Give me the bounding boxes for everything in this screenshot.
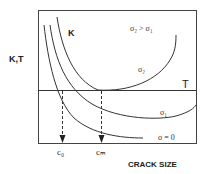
condition-label: σ₂ > σ₁ [130,24,153,33]
cm-arrow-icon [99,135,105,143]
c0-label: c₀ [57,147,64,157]
curve-sigma-zero [44,25,143,138]
sigma0-label: σ = 0 [158,133,175,142]
cm-label: cₘ [96,147,106,157]
sigma1-label: σ₁ [160,108,167,117]
k-t-crack-size-diagram: K,T K σ₂ > σ₁ σ₂ T σ₁ σ = 0 c₀ cₘ CRACK … [0,0,203,174]
t-label: T [182,78,189,90]
curve-sigma-2 [57,17,176,90]
k-label: K [68,28,75,38]
c0-arrow-icon [60,135,66,143]
y-axis-label: K,T [9,54,24,64]
sigma2-label: σ₂ [138,65,145,74]
curve-sigma-1 [50,25,196,118]
x-axis-label: CRACK SIZE [128,160,178,169]
